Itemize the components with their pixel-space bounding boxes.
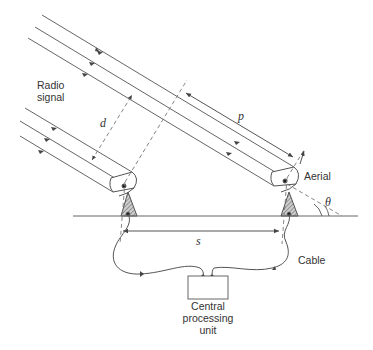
cable-label: Cable <box>298 254 326 266</box>
radio-signal-label-line1: Radio <box>37 79 65 91</box>
ray-direction-arrows-upper <box>82 48 240 157</box>
radio-signal-rays-upper <box>28 15 294 186</box>
cpu-label-line2: processing <box>183 312 234 324</box>
p-label: p <box>237 109 244 123</box>
aerial-label: Aerial <box>304 170 331 182</box>
s-dimension: s <box>123 231 279 248</box>
s-label: s <box>196 234 201 248</box>
d-dimension: d <box>92 95 132 160</box>
left-aerial <box>110 172 137 216</box>
cables <box>113 214 289 277</box>
interferometer-diagram: d p s θ Radio signal Aerial Cable Centra… <box>0 0 373 350</box>
d-label: d <box>100 116 107 130</box>
theta-label: θ <box>325 195 331 209</box>
ray-direction-arrows-lower <box>38 127 57 154</box>
cpu-label-line1: Central <box>191 300 225 312</box>
wavefront-dashed-lines <box>120 80 342 244</box>
radio-signal-label-line2: signal <box>37 91 64 103</box>
central-processing-unit-box <box>188 276 228 299</box>
cpu-label-line3: unit <box>200 324 217 336</box>
theta-angle: θ <box>314 195 331 216</box>
